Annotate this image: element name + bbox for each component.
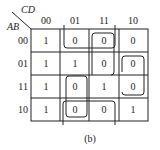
col-header: 01 <box>70 15 80 26</box>
kmap-cell: 1 <box>73 58 78 69</box>
kmap-cell: 0 <box>131 35 136 46</box>
col-header: 11 <box>99 15 109 26</box>
caption: (b) <box>84 133 96 145</box>
kmap-cell: 0 <box>102 104 107 115</box>
kmap-cell: 1 <box>44 35 49 46</box>
kmap-cell: 0 <box>102 35 107 46</box>
karnaugh-map: CD AB 00 01 11 10 00 01 11 10 1000110010… <box>0 0 160 150</box>
kmap-cell: 1 <box>44 58 49 69</box>
kmap-cell: 0 <box>73 81 78 92</box>
kmap-cell: 0 <box>102 58 107 69</box>
kmap-cell: 0 <box>131 81 136 92</box>
kmap-cell: 0 <box>73 104 78 115</box>
kmap-cell: 0 <box>131 58 136 69</box>
row-var-label: AB <box>6 21 19 32</box>
kmap-cell: 1 <box>102 81 107 92</box>
row-header: 10 <box>18 104 28 115</box>
kmap-cell: 0 <box>73 35 78 46</box>
col-var-label: CD <box>21 4 36 15</box>
kmap-cell: 1 <box>131 104 136 115</box>
group-col11-left <box>92 33 95 75</box>
row-header: 01 <box>18 58 28 69</box>
row-header: 00 <box>18 35 28 46</box>
row-header: 11 <box>18 81 28 92</box>
col-header: 10 <box>128 15 138 26</box>
kmap-cell: 1 <box>44 81 49 92</box>
col-header: 00 <box>41 15 51 26</box>
kmap-cell: 1 <box>44 104 49 115</box>
